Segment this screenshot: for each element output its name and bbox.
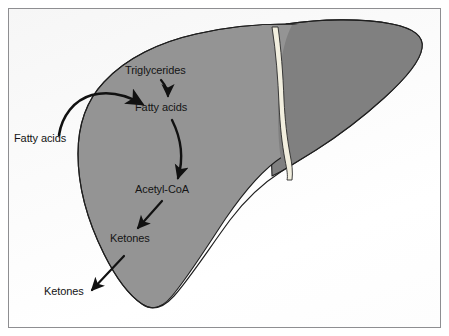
label-acetyl-coa: Acetyl-CoA [135, 183, 189, 195]
label-fatty-acids-circulating: Fatty acids [14, 132, 66, 144]
label-triglycerides: Triglycerides [125, 64, 186, 76]
label-fatty-acids-intracellular: Fatty acids [135, 101, 187, 113]
figure-root: Triglycerides Fatty acids Fatty acids Ac… [0, 0, 449, 336]
label-ketones-circulating: Ketones [44, 285, 84, 297]
label-ketones-intracellular: Ketones [110, 232, 150, 244]
liver-right-lobe-fill [278, 21, 422, 169]
